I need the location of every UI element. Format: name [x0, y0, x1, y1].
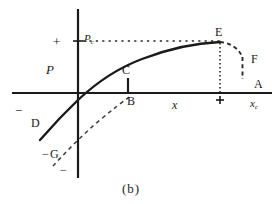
point-label-D: D [31, 117, 40, 129]
g-tick-label: − [42, 148, 49, 160]
curve-main-branch [40, 42, 220, 140]
x-critical-label: xc [250, 98, 258, 111]
pc-subscript: c [91, 38, 94, 46]
point-label-B: B [127, 95, 135, 107]
curve-dashed-EF [220, 42, 242, 57]
point-label-E: E [215, 26, 222, 38]
xc-subscript: c [255, 103, 258, 111]
plot-canvas [0, 0, 275, 204]
pc-value-label: Pc [84, 33, 94, 46]
figure-panel-b: + P − Pc C B D − G − E F A x xc (b) [0, 0, 275, 204]
y-axis-label: P [46, 63, 54, 76]
point-label-C: C [122, 64, 130, 76]
y-axis-minus-tick-label: − [15, 104, 22, 117]
pc-base-symbol: P [84, 32, 91, 44]
point-label-G: G [50, 148, 59, 160]
curve-dashed-G [53, 96, 131, 166]
g-lower-tick-label: − [60, 164, 67, 176]
figure-caption: (b) [122, 182, 140, 195]
x-axis-label: x [172, 99, 177, 111]
point-label-A: A [254, 78, 263, 90]
y-axis-plus-tick-label: + [53, 35, 60, 48]
point-label-F: F [251, 53, 258, 65]
